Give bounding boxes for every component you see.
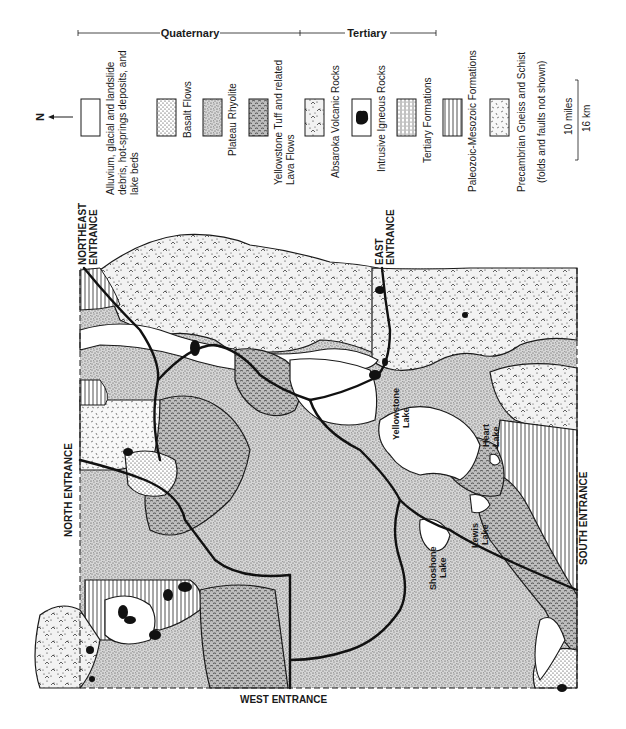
geologic-map-figure: N Quaternary Tertiary Alluvium, glacial … <box>0 0 626 729</box>
scale-miles: 10 miles <box>563 98 574 135</box>
svg-text:(folds and faults not shown): (folds and faults not shown) <box>536 61 547 183</box>
svg-text:Absaroka Volcanic Rocks: Absaroka Volcanic Rocks <box>330 65 341 178</box>
svg-text:Paleozoic-Mesozoic Formations: Paleozoic-Mesozoic Formations <box>467 50 478 192</box>
shoshone-lake-label: Shoshone <box>428 546 438 590</box>
alluvium-swatch <box>81 99 100 136</box>
north-label: N <box>34 113 46 121</box>
intrusive-blob-icon <box>356 111 368 125</box>
west-entrance-label: WEST ENTRANCE <box>240 694 328 705</box>
north-arrow-icon: N <box>34 113 73 121</box>
scale-bar: 10 miles 16 km <box>563 80 592 160</box>
legend: N Quaternary Tertiary Alluvium, glacial … <box>34 27 592 195</box>
legend-item-absaroka: Absaroka Volcanic Rocks <box>305 65 341 178</box>
svg-text:Alluvium, glacial and landslid: Alluvium, glacial and landslide <box>105 61 116 195</box>
park-map: NORTHEAST ENTRANCE NORTH ENTRANCE EAST E… <box>35 203 589 705</box>
precambrian-swatch <box>490 99 509 136</box>
lewis-lake-label: Lewis <box>470 523 480 548</box>
quaternary-label: Quaternary <box>161 27 221 39</box>
north-entrance-label: NORTH ENTRANCE <box>63 443 74 537</box>
northeast-entrance-label: NORTHEAST <box>77 203 88 265</box>
legend-item-intrusive: Intrusive Igneous Rocks <box>352 65 387 172</box>
svg-text:Lava Flows: Lava Flows <box>285 134 296 185</box>
basalt-region-north <box>125 451 177 496</box>
legend-item-tertiary: Tertiary Formations <box>397 77 433 163</box>
legend-item-rhyolite: Plateau Rhyolite <box>203 83 238 156</box>
east-entrance-label-2: ENTRANCE <box>385 209 396 265</box>
quaternary-bracket: Quaternary <box>78 27 300 39</box>
absaroka-swatch <box>305 99 324 136</box>
svg-text:Yellowstone Tuff and related: Yellowstone Tuff and related <box>273 60 284 185</box>
tertiary-label: Tertiary <box>347 27 387 39</box>
legend-item-paleozoic: Paleozoic-Mesozoic Formations <box>443 50 478 192</box>
scale-km: 16 km <box>581 105 592 132</box>
paleozoic-swatch <box>443 99 462 136</box>
basalt-swatch <box>157 99 176 136</box>
heart-lake-label: Heart <box>481 424 491 447</box>
legend-item-tuff: Yellowstone Tuff and related Lava Flows <box>249 60 296 185</box>
rhyolite-swatch <box>203 99 222 136</box>
tertiary-bracket: Tertiary <box>300 27 436 39</box>
legend-item-alluvium: Alluvium, glacial and landslide debris, … <box>81 50 140 195</box>
northeast-entrance-label-2: ENTRANCE <box>88 209 99 265</box>
legend-item-basalt: Basalt Flows <box>157 81 193 138</box>
shoshone-lake-label-2: Lake <box>438 557 448 578</box>
svg-text:debris, hot-springs deposits,: debris, hot-springs deposits, and <box>117 50 128 195</box>
svg-text:Precambrian Gneiss and Schist: Precambrian Gneiss and Schist <box>516 52 527 192</box>
tuff-region-west <box>200 585 288 688</box>
lewis-lake-label-2: Lake <box>480 524 490 545</box>
svg-text:Tertiary Formations: Tertiary Formations <box>422 77 433 163</box>
south-entrance-label: SOUTH ENTRANCE <box>578 471 589 565</box>
svg-text:Plateau Rhyolite: Plateau Rhyolite <box>227 83 238 156</box>
svg-text:Intrusive Igneous Rocks: Intrusive Igneous Rocks <box>376 65 387 172</box>
tuff-swatch <box>249 99 268 136</box>
svg-text:lake beds: lake beds <box>129 152 140 195</box>
tertiary-swatch <box>397 99 416 136</box>
east-entrance-label: EAST <box>374 238 385 265</box>
yellowstone-lake-label: Yellowstone <box>391 388 401 440</box>
heart-lake-label-2: Lake <box>491 426 501 447</box>
svg-text:Basalt Flows: Basalt Flows <box>182 81 193 138</box>
legend-item-precambrian: Precambrian Gneiss and Schist (folds and… <box>490 52 547 192</box>
yellowstone-lake-label-2: Lake <box>401 407 411 428</box>
